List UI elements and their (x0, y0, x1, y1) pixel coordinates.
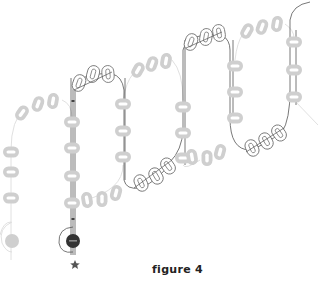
shaded-arc-beads (13, 15, 284, 209)
end-markers (1, 222, 80, 269)
beading-diagram (0, 0, 320, 283)
figure-caption: figure 4 (152, 263, 203, 276)
star-icon (70, 260, 80, 269)
light-end-bead (5, 234, 19, 248)
